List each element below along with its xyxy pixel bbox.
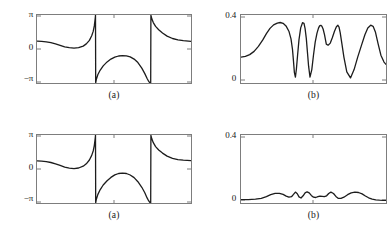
panel-top-left: π 0 −π (a) (0, 0, 195, 118)
ytick-label-top-right-zero: 0 (196, 74, 236, 83)
caption-bottom-right: (b) (240, 210, 387, 220)
ytick-label-bottom-right-zero: 0 (196, 194, 236, 203)
plot-area-top-right (240, 14, 387, 84)
ytick-label-top-left-pi: π (8, 10, 33, 19)
magnitude-curve-top-right (241, 15, 386, 83)
ytick-label-bottom-left-pi: π (8, 130, 33, 139)
ytick-label-bottom-right-04: 0.4 (196, 131, 236, 140)
ytick-label-top-right-04: 0.4 (196, 11, 236, 20)
ytick-label-bottom-left-zero: 0 (8, 163, 33, 172)
caption-bottom-left: (a) (36, 210, 192, 220)
plot-area-bottom-left (36, 134, 192, 204)
plot-area-top-left (36, 14, 192, 84)
caption-top-right: (b) (240, 90, 387, 100)
ytick-label-bottom-left-negpi: −π (2, 194, 33, 203)
ytick-label-top-left-zero: 0 (8, 43, 33, 52)
phase-curve-top-left (37, 15, 191, 83)
phase-curve-bottom-left (37, 135, 191, 203)
ytick-label-top-left-negpi: −π (2, 74, 33, 83)
magnitude-curve-bottom-right (241, 135, 386, 203)
plot-area-bottom-right (240, 134, 387, 204)
panel-top-right: 0.4 0 (b) (195, 0, 390, 118)
panel-bottom-right: 0.4 0 (b) (195, 118, 390, 235)
figure-container: π 0 −π (a) 0.4 0 (0, 0, 390, 235)
caption-top-left: (a) (36, 90, 192, 100)
panel-bottom-left: π 0 −π (a) (0, 118, 195, 235)
